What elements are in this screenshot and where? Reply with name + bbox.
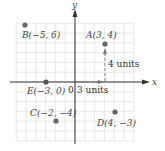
point-d	[112, 109, 117, 114]
x-axis-arrow-icon	[142, 80, 150, 85]
vertical-units-label: 4 units	[108, 59, 140, 69]
point-a	[102, 41, 107, 46]
point-c-label: C(−2, −4)	[30, 108, 77, 118]
point-e-label: E(−3, 0)	[26, 86, 66, 96]
origin-label: 0	[68, 85, 74, 95]
horizontal-guide-arrow-icon	[98, 80, 104, 84]
point-c	[53, 118, 58, 123]
point-b-label: B(−5, 6)	[21, 30, 61, 40]
point-a-label: A(3, 4)	[85, 30, 117, 40]
horizontal-units-label: 3 units	[77, 85, 109, 95]
y-axis-label: y	[71, 0, 78, 10]
point-d-label: D(4, −3)	[96, 118, 136, 128]
vertical-guide-arrow-icon	[103, 48, 107, 54]
point-b	[22, 22, 27, 27]
point-e	[43, 79, 48, 84]
x-axis-label: x	[152, 77, 157, 87]
y-axis-arrow-icon	[73, 9, 78, 17]
coordinate-plane: x y 0 3 units 4 units A(3, 4) B(−5, 6) C…	[0, 0, 165, 151]
